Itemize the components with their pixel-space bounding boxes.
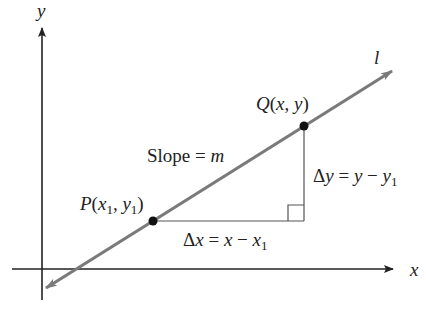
x-axis-label: x [409,259,419,280]
slope-label: Slope = m [147,145,224,166]
delta-y-label: Δy = y − y1 [313,165,397,189]
slope-diagram: y x l Q(x, y) Slope = m P(x1, y1) Δx = x… [0,0,426,326]
delta-x-label: Δx = x − x1 [183,229,267,253]
right-angle-mark [288,205,304,221]
y-axis-label: y [35,0,46,21]
line-label: l [374,47,379,68]
point-p [149,217,158,226]
line-l-lower [46,221,153,288]
point-p-label: P(x1, y1) [79,193,144,217]
point-q [300,122,309,131]
point-q-label: Q(x, y) [256,93,309,115]
